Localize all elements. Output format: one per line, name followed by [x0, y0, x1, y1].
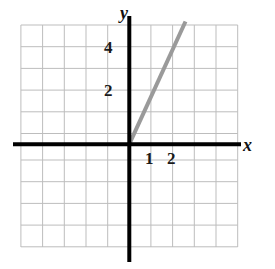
plotted-line-series [129, 22, 185, 145]
y-tick-label-4: 4 [104, 39, 113, 56]
x-tick-label-1: 1 [145, 150, 154, 167]
x-axis-label: x [243, 136, 252, 154]
x-tick-label-2: 2 [167, 150, 176, 167]
y-axis-label: y [120, 4, 128, 22]
graph-canvas [0, 0, 275, 269]
coordinate-plane-figure: 4 2 1 2 x y [0, 0, 275, 269]
y-tick-label-2: 2 [104, 82, 113, 99]
